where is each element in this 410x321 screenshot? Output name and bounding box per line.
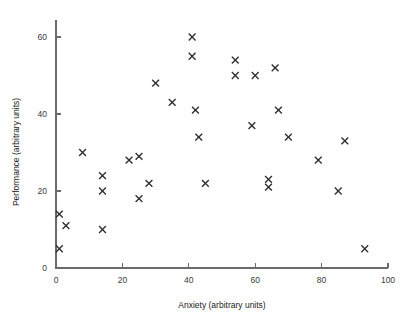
data-point-marker xyxy=(272,64,279,71)
data-point-marker xyxy=(189,53,196,60)
data-point-marker xyxy=(202,180,209,187)
scatter-chart: 0204060801000204060 Anxiety (arbitrary u… xyxy=(0,0,410,321)
data-point-marker xyxy=(152,80,159,87)
plot-area: 0204060801000204060 Anxiety (arbitrary u… xyxy=(0,0,410,321)
data-point-marker xyxy=(285,134,292,141)
data-point-marker xyxy=(189,34,196,41)
data-point-marker xyxy=(265,176,272,183)
data-point-marker xyxy=(79,149,86,156)
data-point-marker xyxy=(248,122,255,129)
data-point-marker xyxy=(99,172,106,179)
data-point-marker xyxy=(99,226,106,233)
data-points xyxy=(56,34,368,253)
data-point-marker xyxy=(195,134,202,141)
y-tick-label: 40 xyxy=(38,109,48,119)
data-point-marker xyxy=(136,195,143,202)
data-point-marker xyxy=(315,157,322,164)
data-point-marker xyxy=(265,184,272,191)
data-point-marker xyxy=(275,107,282,114)
data-point-marker xyxy=(361,245,368,252)
tick-marks xyxy=(56,37,388,268)
x-tick-label: 80 xyxy=(317,275,327,285)
data-point-marker xyxy=(126,157,133,164)
data-point-marker xyxy=(169,99,176,106)
x-axis-title: Anxiety (arbitrary units) xyxy=(178,300,266,310)
x-tick-label: 60 xyxy=(250,275,260,285)
x-tick-label: 40 xyxy=(184,275,194,285)
y-tick-label: 60 xyxy=(38,32,48,42)
data-point-marker xyxy=(341,138,348,145)
data-point-marker xyxy=(232,57,239,64)
tick-labels: 0204060801000204060 xyxy=(38,32,396,285)
data-point-marker xyxy=(136,153,143,160)
data-point-marker xyxy=(56,245,63,252)
data-point-marker xyxy=(63,222,70,229)
x-tick-label: 20 xyxy=(118,275,128,285)
x-tick-label: 100 xyxy=(381,275,395,285)
data-point-marker xyxy=(192,107,199,114)
data-point-marker xyxy=(146,180,153,187)
data-point-marker xyxy=(232,72,239,79)
y-tick-label: 0 xyxy=(42,263,47,273)
y-axis-title: Performance (arbitrary units) xyxy=(11,98,21,206)
data-point-marker xyxy=(335,188,342,195)
axes xyxy=(56,20,388,268)
data-point-marker xyxy=(252,72,259,79)
x-tick-label: 0 xyxy=(54,275,59,285)
data-point-marker xyxy=(99,188,106,195)
y-tick-label: 20 xyxy=(38,186,48,196)
data-point-marker xyxy=(56,211,63,218)
